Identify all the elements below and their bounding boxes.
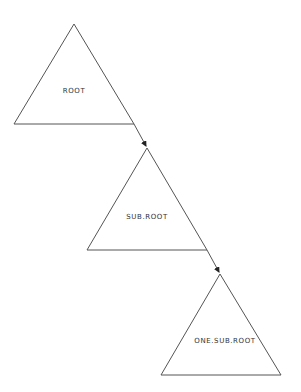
node-label-onesubroot: ONE.SUB.ROOT <box>194 337 255 345</box>
diagram-canvas <box>0 0 301 392</box>
node-subroot-triangle[interactable] <box>87 148 207 250</box>
node-label-subroot: SUB.ROOT <box>126 213 168 221</box>
edge-subroot-to-onesubroot <box>207 250 219 272</box>
node-onesubroot-triangle[interactable] <box>161 274 281 375</box>
edge-root-to-subroot <box>134 124 146 146</box>
node-label-root: ROOT <box>63 87 86 95</box>
node-root-triangle[interactable] <box>14 24 134 124</box>
